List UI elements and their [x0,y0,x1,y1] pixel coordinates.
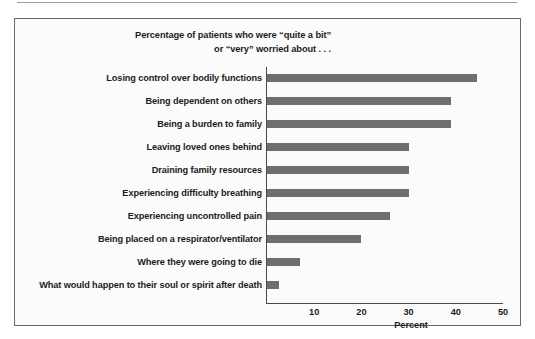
bar-row: Experiencing uncontrolled pain [15,205,522,227]
bar-row: Losing control over bodily functions [15,67,522,89]
bar-category-label: Being dependent on others [146,96,262,106]
bar [267,143,409,151]
bar-category-label: Where they were going to die [137,257,262,267]
bar [267,120,451,128]
x-tick-label: 40 [451,307,461,317]
figure-frame: Percentage of patients who were “quite a… [14,18,521,326]
x-axis-line [266,303,503,304]
bar-row: Being a burden to family [15,113,522,135]
bar [267,74,477,82]
bar [267,281,279,289]
bar-row: Being placed on a respirator/ventilator [15,228,522,250]
bar-category-label: Experiencing difficulty breathing [122,188,262,198]
bar [267,189,409,197]
x-tick-label: 50 [498,307,508,317]
bar-category-label: What would happen to their soul or spiri… [39,280,262,290]
bar-row: Leaving loved ones behind [15,136,522,158]
plot-area: Losing control over bodily functions Bei… [15,19,522,327]
bar-row: Being dependent on others [15,90,522,112]
bar [267,235,361,243]
bar-category-label: Leaving loved ones behind [147,142,262,152]
x-tick-label: 10 [309,307,319,317]
bar-category-label: Experiencing uncontrolled pain [128,211,262,221]
bar [267,258,300,266]
bar-category-label: Being a burden to family [157,119,262,129]
bar-row: Experiencing difficulty breathing [15,182,522,204]
bar [267,166,409,174]
bar [267,212,390,220]
bar-row: Where they were going to die [15,251,522,273]
bar [267,97,451,105]
x-axis-title: Percent [394,320,428,330]
bar-row: Draining family resources [15,159,522,181]
x-tick-label: 20 [356,307,366,317]
bar-category-label: Draining family resources [152,165,262,175]
x-tick-label: 30 [403,307,413,317]
bar-category-label: Losing control over bodily functions [106,73,262,83]
chart-screenshot: Percentage of patients who were “quite a… [0,0,535,339]
top-divider-rule [17,2,517,3]
bar-category-label: Being placed on a respirator/ventilator [98,234,262,244]
bar-row: What would happen to their soul or spiri… [15,274,522,296]
